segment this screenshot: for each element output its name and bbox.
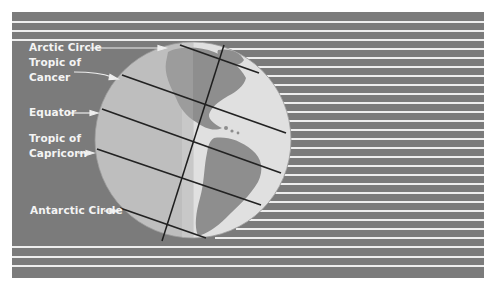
label-text-line-1: Tropic of [29, 131, 87, 146]
label-text-line-2: Cancer [29, 70, 81, 85]
earth-tilt-diagram: Arctic Circle Tropic of Cancer Equator T… [0, 0, 496, 290]
label-text: Antarctic Circle [30, 204, 123, 216]
label-tropic-of-cancer: Tropic of Cancer [29, 55, 81, 85]
label-text: Equator [29, 106, 76, 118]
label-text-line-1: Tropic of [29, 55, 81, 70]
label-tropic-of-capricorn: Tropic of Capricorn [29, 131, 87, 161]
label-text-line-2: Capricorn [29, 146, 87, 161]
label-equator: Equator [29, 105, 76, 120]
label-text: Arctic Circle [29, 41, 102, 53]
label-antarctic-circle: Antarctic Circle [30, 203, 123, 218]
label-arctic-circle: Arctic Circle [29, 40, 102, 55]
